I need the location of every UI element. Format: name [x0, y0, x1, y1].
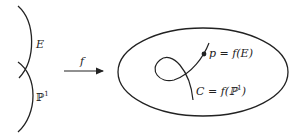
curve-p1 — [18, 62, 33, 132]
label-curve-c-base: C = f(ℙ — [196, 85, 237, 98]
label-f: f — [80, 55, 84, 68]
label-p1-superscript: 1 — [44, 90, 48, 98]
label-curve-c-close: ) — [242, 85, 246, 98]
arrow-head-icon — [96, 68, 104, 75]
label-e: E — [36, 38, 44, 51]
diagram-canvas — [0, 0, 303, 138]
label-p1: ℙ1 — [36, 90, 49, 104]
label-curve-c: C = f(ℙ1) — [196, 84, 246, 98]
curve-e — [18, 6, 32, 78]
point-p — [202, 52, 207, 57]
label-point-p: p = f(E) — [209, 47, 253, 60]
target-surface-ellipse — [118, 28, 288, 116]
